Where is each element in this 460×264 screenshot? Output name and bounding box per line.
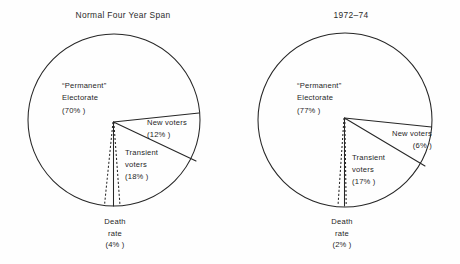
label-permanent-name-right: “Permanent” <box>297 80 341 92</box>
label-transient-name-left: Transient <box>125 147 158 159</box>
label-death-pct-right: (2% ) <box>319 239 365 251</box>
label-transient-voters-right: Transient voters (17% ) <box>352 152 385 188</box>
label-transient-pct-right: (17% ) <box>352 176 385 188</box>
label-new-voters-name-right: New voters <box>376 128 432 140</box>
label-permanent-pct-left: (70% ) <box>62 105 106 117</box>
label-new-voters-pct-left: (12% ) <box>147 129 187 141</box>
death-rate-wedge-left-edge-left <box>105 122 114 205</box>
label-permanent-name2-left: Electorate <box>62 92 106 104</box>
label-death-name2-left: rate <box>92 228 138 240</box>
label-permanent-pct-right: (77% ) <box>297 105 341 117</box>
pie-chart-normal-four-year-span: Normal Four Year Span “Permanent” Electo… <box>0 0 230 264</box>
label-permanent-electorate-left: “Permanent” Electorate (70% ) <box>62 80 106 117</box>
label-new-voters-name-left: New voters <box>147 117 187 129</box>
two-pie-chart-figure: Normal Four Year Span “Permanent” Electo… <box>0 0 460 264</box>
label-death-name2-right: rate <box>319 228 365 240</box>
label-death-rate-left: Death rate (4% ) <box>92 216 138 251</box>
label-death-name-right: Death <box>319 216 365 228</box>
label-transient-name-right: Transient <box>352 152 385 164</box>
label-permanent-name-left: “Permanent” <box>62 80 106 92</box>
label-transient-name2-right: voters <box>352 164 385 176</box>
label-transient-voters-left: Transient voters (18% ) <box>125 147 158 183</box>
label-transient-pct-left: (18% ) <box>125 171 158 183</box>
label-death-rate-right: Death rate (2% ) <box>319 216 365 251</box>
label-death-name-left: Death <box>92 216 138 228</box>
label-death-pct-left: (4% ) <box>92 239 138 251</box>
label-permanent-name2-right: Electorate <box>297 92 341 104</box>
pie-chart-1972-74: 1972–74 “Permanent” Electorate (77% ) Ne… <box>230 0 460 264</box>
label-new-voters-right: New voters (6% ) <box>376 128 432 151</box>
label-new-voters-pct-right: (6% ) <box>376 140 432 152</box>
label-transient-name2-left: voters <box>125 159 158 171</box>
death-rate-wedge-right-edge-left <box>114 122 120 206</box>
label-new-voters-left: New voters (12% ) <box>147 117 187 140</box>
label-permanent-electorate-right: “Permanent” Electorate (77% ) <box>297 80 341 117</box>
death-rate-wedge-left-edge-right <box>338 118 344 206</box>
